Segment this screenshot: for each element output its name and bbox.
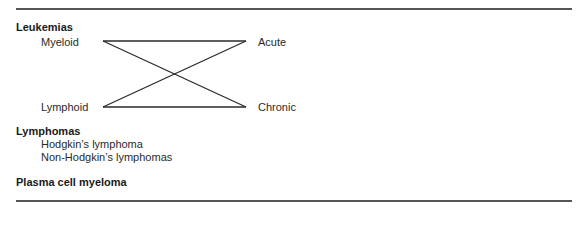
lymphoma-item-hodgkin: Hodgkin’s lymphoma [41, 138, 143, 151]
plasma-cell-myeloma-heading: Plasma cell myeloma [16, 176, 127, 189]
bottom-rule [16, 200, 572, 202]
lymphomas-heading: Lymphomas [16, 125, 80, 138]
connector-lines [103, 41, 246, 107]
lymphoma-item-non-hodgkin: Non-Hodgkin’s lymphomas [41, 151, 172, 164]
